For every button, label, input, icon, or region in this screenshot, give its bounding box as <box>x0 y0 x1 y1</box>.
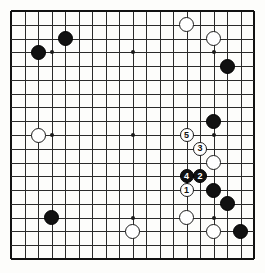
move-stone-4[interactable]: 4 <box>180 169 194 183</box>
grid-line-horizontal <box>11 245 254 246</box>
go-diagram-container: 12345 <box>0 0 265 273</box>
black-stone[interactable] <box>44 210 59 225</box>
white-stone[interactable] <box>179 210 194 225</box>
move-stone-1[interactable]: 1 <box>180 183 194 197</box>
black-stone[interactable] <box>220 196 235 211</box>
star-point <box>50 133 54 137</box>
star-point <box>212 133 216 137</box>
black-stone[interactable] <box>31 45 46 60</box>
white-stone[interactable] <box>179 17 194 32</box>
move-stone-5[interactable]: 5 <box>180 128 194 142</box>
star-point <box>131 133 135 137</box>
grid-line-horizontal <box>11 66 254 67</box>
move-number-label: 4 <box>184 172 189 181</box>
star-point <box>131 216 135 220</box>
move-stone-2[interactable]: 2 <box>193 169 207 183</box>
grid-line-horizontal <box>11 258 254 260</box>
grid-line-horizontal <box>11 176 254 177</box>
star-point <box>212 50 216 54</box>
grid-line-horizontal <box>11 149 254 150</box>
black-stone[interactable] <box>206 114 221 129</box>
go-board[interactable]: 12345 <box>11 11 254 259</box>
grid-line-horizontal <box>11 204 254 205</box>
white-stone[interactable] <box>31 128 46 143</box>
grid-line-horizontal <box>11 10 254 12</box>
black-stone[interactable] <box>58 31 73 46</box>
move-number-label: 3 <box>197 144 202 153</box>
star-point <box>212 216 216 220</box>
white-stone[interactable] <box>206 224 221 239</box>
grid-line-horizontal <box>11 25 254 26</box>
star-point <box>50 50 54 54</box>
black-stone[interactable] <box>233 224 248 239</box>
move-number-label: 2 <box>197 172 202 181</box>
grid-line-horizontal <box>11 107 254 108</box>
grid-line-horizontal <box>11 94 254 95</box>
move-number-label: 1 <box>184 186 189 195</box>
white-stone[interactable] <box>125 224 140 239</box>
grid-line-horizontal <box>11 80 254 81</box>
black-stone[interactable] <box>206 183 221 198</box>
star-point <box>131 50 135 54</box>
white-stone[interactable] <box>206 31 221 46</box>
black-stone[interactable] <box>220 59 235 74</box>
white-stone[interactable] <box>206 155 221 170</box>
move-number-label: 5 <box>184 131 189 140</box>
move-stone-3[interactable]: 3 <box>193 142 207 156</box>
